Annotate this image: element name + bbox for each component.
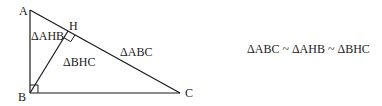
vertex-label-a: A [19, 4, 28, 18]
region-label-ahb: ΔAHB [31, 29, 64, 43]
region-label-bhc: ΔBHC [63, 55, 95, 69]
side-ac [30, 10, 180, 93]
vertex-label-c: C [185, 86, 193, 100]
vertex-label-h: H [69, 19, 78, 33]
region-label-abc: ΔABC [120, 45, 152, 59]
similarity-relation: ΔABC ~ ΔAHB ~ ΔBHC [247, 42, 370, 57]
vertex-label-b: B [18, 90, 26, 104]
